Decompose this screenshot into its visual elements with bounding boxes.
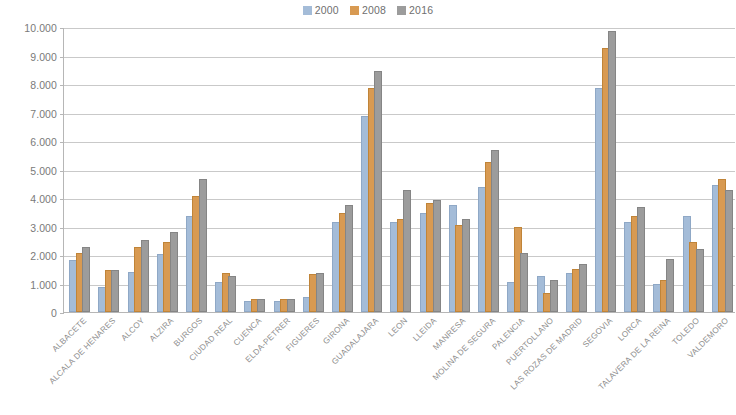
bar-2016[interactable] bbox=[374, 71, 382, 312]
bar-2016[interactable] bbox=[345, 205, 353, 312]
bar-group bbox=[122, 28, 151, 312]
bar-group bbox=[590, 28, 619, 312]
legend-item-2008[interactable]: 2008 bbox=[350, 5, 386, 16]
x-axis-tick-label: ALCOY bbox=[120, 316, 147, 343]
bar-group bbox=[152, 28, 181, 312]
bar-group bbox=[64, 28, 93, 312]
bars-layer bbox=[64, 28, 735, 312]
bar-group bbox=[707, 28, 736, 312]
bar-2016[interactable] bbox=[637, 207, 645, 312]
x-axis-tick-label: SEGOVIA bbox=[580, 316, 613, 349]
bar-2016[interactable] bbox=[257, 299, 265, 312]
y-axis-tick-label: 1.000 bbox=[0, 279, 57, 291]
x-axis-tick-label: LEON bbox=[387, 316, 410, 339]
bar-2016[interactable] bbox=[462, 219, 470, 312]
legend-label: 2016 bbox=[409, 5, 433, 16]
x-axis-labels: ALBACETEALCALA DE HENARESALCOYALZIRABURG… bbox=[63, 313, 735, 415]
x-axis-tick-label: ALZIRA bbox=[148, 316, 175, 343]
bar-2016[interactable] bbox=[287, 299, 295, 312]
bar-group bbox=[502, 28, 531, 312]
bar-2016[interactable] bbox=[403, 190, 411, 312]
bar-group bbox=[473, 28, 502, 312]
bar-group bbox=[531, 28, 560, 312]
y-axis-labels: 01.0002.0003.0004.0005.0006.0007.0008.00… bbox=[0, 0, 57, 415]
bar-2016[interactable] bbox=[199, 179, 207, 312]
bar-2016[interactable] bbox=[170, 232, 178, 312]
chart-legend: 200020082016 bbox=[0, 2, 736, 18]
bar-group bbox=[561, 28, 590, 312]
y-axis-tick-label: 7.000 bbox=[0, 108, 57, 120]
legend-item-2000[interactable]: 2000 bbox=[303, 5, 339, 16]
bar-2016[interactable] bbox=[433, 200, 441, 312]
legend-label: 2008 bbox=[362, 5, 386, 16]
bar-group bbox=[93, 28, 122, 312]
bar-2016[interactable] bbox=[696, 249, 704, 312]
y-axis-tick-label: 3.000 bbox=[0, 222, 57, 234]
legend-swatch-icon bbox=[303, 6, 312, 15]
bar-2016[interactable] bbox=[520, 253, 528, 312]
legend-swatch-icon bbox=[350, 6, 359, 15]
bar-2016[interactable] bbox=[491, 150, 499, 312]
y-axis-tick-label: 9.000 bbox=[0, 51, 57, 63]
y-axis-tick-label: 10.000 bbox=[0, 22, 57, 34]
y-axis-tick-label: 4.000 bbox=[0, 193, 57, 205]
bar-2016[interactable] bbox=[316, 273, 324, 312]
bar-group bbox=[210, 28, 239, 312]
bar-group bbox=[619, 28, 648, 312]
legend-label: 2000 bbox=[315, 5, 339, 16]
bar-2016[interactable] bbox=[228, 276, 236, 312]
y-axis-tick-label: 6.000 bbox=[0, 136, 57, 148]
bar-2016[interactable] bbox=[608, 31, 616, 312]
bar-2016[interactable] bbox=[141, 240, 149, 312]
bar-group bbox=[678, 28, 707, 312]
bar-2016[interactable] bbox=[666, 259, 674, 312]
x-axis-tick-label: LORCA bbox=[616, 316, 643, 343]
bar-group bbox=[385, 28, 414, 312]
bar-group bbox=[298, 28, 327, 312]
bar-group bbox=[181, 28, 210, 312]
bar-group bbox=[356, 28, 385, 312]
bar-group bbox=[648, 28, 677, 312]
legend-item-2016[interactable]: 2016 bbox=[397, 5, 433, 16]
bar-2016[interactable] bbox=[725, 190, 733, 312]
bar-2016[interactable] bbox=[111, 270, 119, 312]
x-axis-tick-label: GIRONA bbox=[321, 316, 351, 346]
y-axis-tick-label: 2.000 bbox=[0, 250, 57, 262]
x-axis-tick-label: MOLINA DE SEGURA bbox=[431, 316, 497, 382]
bar-group bbox=[269, 28, 298, 312]
x-axis-tick-label: LLEIDA bbox=[411, 316, 438, 343]
plot-area bbox=[63, 28, 735, 313]
bar-chart: 200020082016 01.0002.0003.0004.0005.0006… bbox=[0, 0, 736, 415]
y-axis-tick-label: 8.000 bbox=[0, 79, 57, 91]
bar-group bbox=[327, 28, 356, 312]
bar-group bbox=[444, 28, 473, 312]
y-axis-tick-label: 5.000 bbox=[0, 165, 57, 177]
bar-2016[interactable] bbox=[579, 264, 587, 312]
bar-group bbox=[239, 28, 268, 312]
legend-swatch-icon bbox=[397, 6, 406, 15]
y-axis-tick-label: 0 bbox=[0, 307, 57, 319]
bar-group bbox=[415, 28, 444, 312]
bar-2016[interactable] bbox=[82, 247, 90, 312]
bar-2016[interactable] bbox=[550, 280, 558, 312]
